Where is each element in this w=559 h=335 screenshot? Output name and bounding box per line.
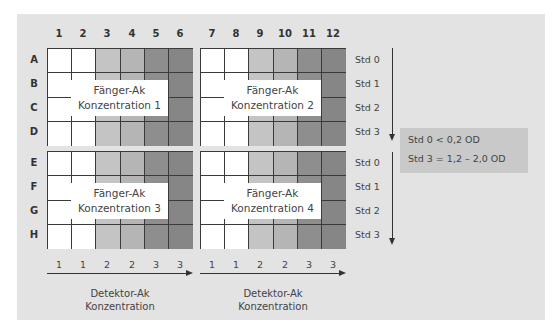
well — [225, 152, 249, 176]
col-label: 10 — [273, 28, 297, 39]
arrow-down-icon — [389, 134, 395, 141]
label-line: Fänger-Ak — [71, 83, 168, 98]
std-label: Std 2 — [355, 102, 380, 113]
well — [48, 49, 72, 73]
plate-label-3: Fänger-Ak Konzentration 3 — [71, 183, 168, 219]
well — [249, 225, 273, 249]
label-line: Konzentration — [223, 300, 323, 313]
well — [225, 122, 249, 146]
well — [48, 176, 72, 200]
well — [96, 152, 120, 176]
well — [145, 152, 169, 176]
detektor-label-2: Detektor-Ak Konzentration — [223, 287, 323, 313]
well — [274, 49, 298, 73]
plate-label-1: Fänger-Ak Konzentration 1 — [71, 80, 168, 116]
well — [201, 225, 225, 249]
arrow-down-icon — [389, 238, 395, 245]
std-label: Std 1 — [355, 181, 380, 192]
detektor-level: 3 — [321, 259, 345, 270]
detektor-label-1: Detektor-Ak Konzentration — [70, 287, 170, 313]
well — [201, 176, 225, 200]
well — [298, 225, 322, 249]
well — [72, 122, 96, 146]
detektor-level: 2 — [120, 259, 144, 270]
well — [249, 49, 273, 73]
col-label: 12 — [321, 28, 345, 39]
label-line: Konzentration 1 — [71, 98, 168, 113]
well — [169, 176, 193, 200]
well — [48, 152, 72, 176]
detektor-level: 1 — [200, 259, 224, 270]
row-label: D — [28, 126, 40, 137]
well — [225, 49, 249, 73]
row-label: E — [28, 157, 40, 168]
col-label: 3 — [95, 28, 119, 39]
detektor-level: 3 — [297, 259, 321, 270]
label-line: Detektor-Ak — [70, 287, 170, 300]
col-label: 9 — [248, 28, 272, 39]
well — [121, 49, 145, 73]
col-label: 8 — [224, 28, 248, 39]
arrow-right-icon — [339, 270, 346, 276]
plate-label-2: Fänger-Ak Konzentration 2 — [224, 80, 321, 116]
well — [48, 225, 72, 249]
label-line: Konzentration 3 — [71, 201, 168, 216]
well — [48, 98, 72, 122]
well — [322, 49, 346, 73]
well — [48, 201, 72, 225]
well — [72, 152, 96, 176]
well — [201, 98, 225, 122]
detektor-level: 1 — [71, 259, 95, 270]
col-label: 5 — [144, 28, 168, 39]
col-label: 4 — [120, 28, 144, 39]
well — [322, 152, 346, 176]
well — [96, 122, 120, 146]
std-label: Std 0 — [355, 54, 380, 65]
well — [145, 122, 169, 146]
well — [96, 225, 120, 249]
well — [121, 225, 145, 249]
col-label: 7 — [200, 28, 224, 39]
well — [274, 152, 298, 176]
std-label: Std 3 — [355, 229, 380, 240]
label-line: Konzentration 2 — [224, 98, 321, 113]
well — [225, 225, 249, 249]
well — [145, 225, 169, 249]
well — [322, 176, 346, 200]
well — [298, 49, 322, 73]
detektor-level: 2 — [273, 259, 297, 270]
std-label: Std 3 — [355, 126, 380, 137]
well — [169, 122, 193, 146]
col-label: 6 — [168, 28, 192, 39]
well — [72, 225, 96, 249]
note-line: Std 3 = 1,2 – 2,0 OD — [408, 153, 506, 164]
row-label: A — [28, 54, 40, 65]
arrow-right-icon — [186, 270, 193, 276]
well — [322, 73, 346, 97]
well — [274, 122, 298, 146]
label-line: Konzentration 4 — [224, 201, 321, 216]
well — [249, 122, 273, 146]
well — [201, 122, 225, 146]
col-label: 2 — [71, 28, 95, 39]
detektor-axis-line — [47, 273, 187, 274]
std-label: Std 2 — [355, 205, 380, 216]
well — [298, 122, 322, 146]
detektor-level: 1 — [224, 259, 248, 270]
well — [201, 73, 225, 97]
row-label: C — [28, 102, 40, 113]
label-line: Detektor-Ak — [223, 287, 323, 300]
well — [121, 122, 145, 146]
detektor-level: 1 — [47, 259, 71, 270]
detektor-level: 3 — [144, 259, 168, 270]
plate-label-4: Fänger-Ak Konzentration 4 — [224, 183, 321, 219]
well — [169, 152, 193, 176]
row-label: F — [28, 181, 40, 192]
well — [169, 98, 193, 122]
well — [322, 122, 346, 146]
std-arrow-line — [392, 48, 393, 134]
label-line: Fänger-Ak — [224, 83, 321, 98]
col-label: 11 — [297, 28, 321, 39]
label-line: Fänger-Ak — [224, 186, 321, 201]
well — [48, 73, 72, 97]
